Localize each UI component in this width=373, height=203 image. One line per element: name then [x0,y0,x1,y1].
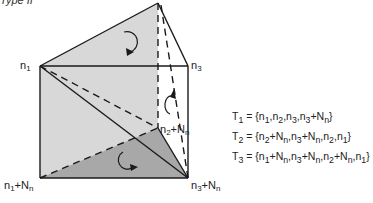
tetrahedra-sets: T1 = {n1,n2,n3,n3+Nn} T2 = {n2+Nn,n3+Nn,… [232,108,370,168]
set-T2: T2 = {n2+Nn,n3+Nn,n2,n1} [232,128,370,148]
node-label-n1-plus-Nn: n1+Nn [4,180,33,193]
node-label-n3: n3 [191,60,202,73]
set-T1: T1 = {n1,n2,n3,n3+Nn} [232,108,370,128]
prism-diagram [0,0,373,203]
node-label-n2-plus-Nn: n2+Nn [160,124,189,137]
set-T3: T3 = {n1+Nn,n3+Nn,n2+Nn,n1} [232,148,370,168]
rotation-arrow-icon [165,96,172,114]
node-label-n3-plus-Nn: n3+Nn [191,180,220,193]
node-label-n1: n1 [20,60,31,73]
